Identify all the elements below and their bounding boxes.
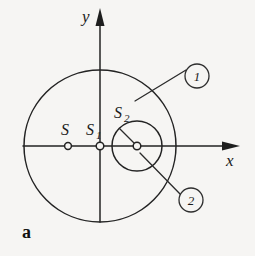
callout-2-label: 2 [188,193,195,208]
point-marker-s [65,143,72,150]
point-label-s: S [61,121,69,138]
point-marker-s1 [96,142,104,150]
callout-1-label: 1 [194,69,201,84]
y-axis-arrowhead [96,8,105,26]
x-axis-label: x [225,151,234,170]
x-axis-arrowhead [222,142,240,151]
point-label-s2: S [114,104,122,121]
callout-1-leader-line [135,70,186,101]
point-label-s1-subscript: 1 [96,129,102,141]
figure-container: 1 2 y x S S 1 S 2 a [0,0,255,256]
figure-diagram: 1 2 y x S S 1 S 2 a [0,0,255,256]
point-label-s1: S [86,121,94,138]
figure-letter: a [22,222,31,242]
point-marker-s2 [133,142,141,150]
y-axis-label: y [80,7,90,26]
point-label-s2-subscript: 2 [124,112,130,124]
